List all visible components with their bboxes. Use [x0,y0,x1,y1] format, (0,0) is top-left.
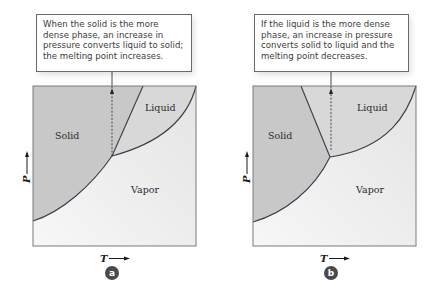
callout-box-a: When the solid is the more dense phase, … [36,14,192,72]
x-axis-label-group: T [320,253,350,264]
arrow-up-icon [245,151,249,157]
liquid-label: Liquid [145,102,176,113]
arrow-right-icon [344,257,350,261]
x-axis-label-group: T [100,253,130,264]
solid-label: Solid [55,130,79,141]
arrow-right-icon [124,257,130,261]
arrow-up-icon [25,151,29,157]
callout-text: When the solid is the more dense phase, … [43,19,183,61]
panel-badge-text: a [109,268,115,278]
y-axis-label: P [241,175,252,184]
x-axis-label: T [320,253,329,264]
x-axis-label: T [100,253,109,264]
liquid-label: Liquid [357,102,388,113]
panel-b: Solid Liquid Vapor P T b If the liquid i… [215,0,430,289]
callout-box-b: If the liquid is the more dense phase, a… [254,14,409,72]
solid-label: Solid [268,130,292,141]
y-axis-label-group: P [241,151,252,184]
vapor-label: Vapor [130,184,159,195]
y-axis-label-group: P [21,151,32,184]
panel-badge-text: b [328,268,335,278]
vapor-label: Vapor [355,184,384,195]
panel-a: Solid Liquid Vapor P T a When the solid … [0,0,215,289]
y-axis-label: P [21,175,32,184]
callout-text: If the liquid is the more dense phase, a… [261,19,394,61]
